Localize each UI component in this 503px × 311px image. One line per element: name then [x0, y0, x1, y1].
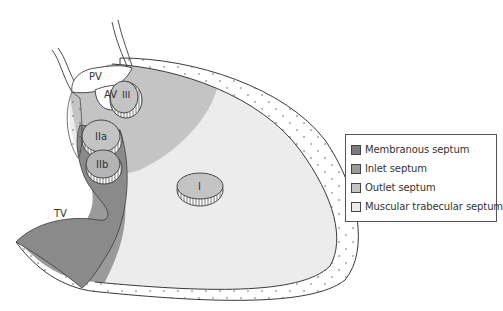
- legend-item-inlet: Inlet septum: [351, 159, 496, 178]
- label-pv: PV: [89, 71, 102, 82]
- legend-item-membranous: Membranous septum: [351, 140, 496, 159]
- legend-label: Membranous septum: [365, 144, 469, 155]
- swatch-trabecular: [351, 202, 361, 212]
- swatch-inlet: [351, 164, 361, 174]
- label-iii: III: [122, 89, 130, 100]
- label-av: AV: [104, 89, 117, 100]
- label-iib: IIb: [96, 159, 108, 170]
- legend-label: Outlet septum: [365, 182, 436, 193]
- legend: Membranous septum Inlet septum Outlet se…: [345, 134, 497, 222]
- legend-label: Inlet septum: [365, 163, 427, 174]
- legend-label: Muscular trabecular septum: [365, 201, 503, 212]
- label-iia: IIa: [95, 131, 107, 142]
- legend-item-trabecular: Muscular trabecular septum: [351, 197, 496, 216]
- swatch-outlet: [351, 183, 361, 193]
- swatch-membranous: [351, 145, 361, 155]
- membranous-strip: [67, 92, 82, 158]
- legend-item-outlet: Outlet septum: [351, 178, 496, 197]
- label-tv: TV: [53, 208, 67, 219]
- label-i: I: [198, 181, 201, 192]
